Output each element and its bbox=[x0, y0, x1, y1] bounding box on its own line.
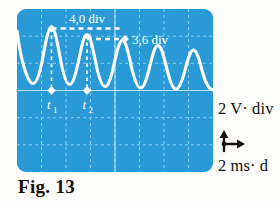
axes-arrows-icon bbox=[216, 127, 250, 153]
figure-13: 4,0 div 3,6 div t 1 t 2 2 V· div bbox=[0, 0, 280, 203]
horizontal-scale-label: 2 ms· d bbox=[218, 158, 268, 175]
figure-caption: Fig. 13 bbox=[18, 176, 75, 198]
peak1-label: 4,0 div bbox=[69, 11, 106, 26]
t2-subscript: 2 bbox=[89, 105, 94, 115]
t1-label: t bbox=[47, 97, 51, 112]
peak2-label: 3,6 div bbox=[132, 32, 169, 47]
t2-label: t bbox=[83, 97, 87, 112]
oscilloscope-screen: 4,0 div 3,6 div t 1 t 2 bbox=[17, 9, 213, 172]
oscilloscope-trace-svg: 4,0 div 3,6 div t 1 t 2 bbox=[17, 9, 213, 172]
t1-subscript: 1 bbox=[53, 105, 58, 115]
vertical-scale-label: 2 V· div bbox=[218, 101, 274, 118]
